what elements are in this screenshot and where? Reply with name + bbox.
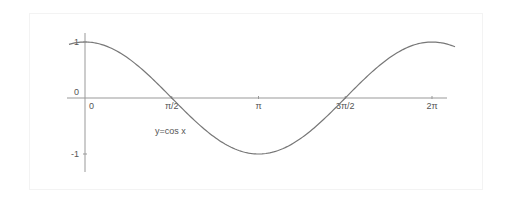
- x-tick-label: 0: [89, 101, 94, 111]
- y-tick-label: -1: [71, 149, 79, 159]
- x-tick-label: 2π: [426, 101, 437, 111]
- y-tick-label: 0: [74, 87, 79, 97]
- function-label: y=cos x: [155, 126, 186, 136]
- x-tick-label: π: [255, 101, 261, 111]
- cosine-chart: 0π/2π3π/22π10-1 y=cos x: [0, 0, 509, 201]
- x-tick-label: 3π/2: [336, 101, 355, 111]
